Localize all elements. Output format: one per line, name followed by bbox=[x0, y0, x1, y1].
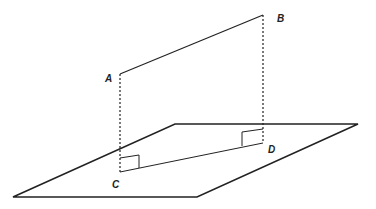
label-d: D bbox=[268, 144, 275, 155]
segment-ab bbox=[120, 15, 263, 74]
right-angle-c bbox=[120, 155, 139, 168]
projection-diagram: A B C D bbox=[0, 0, 376, 209]
label-a: A bbox=[104, 73, 112, 84]
plane bbox=[13, 124, 358, 197]
segment-cd bbox=[120, 143, 263, 172]
label-c: C bbox=[112, 179, 120, 190]
label-b: B bbox=[277, 13, 284, 24]
